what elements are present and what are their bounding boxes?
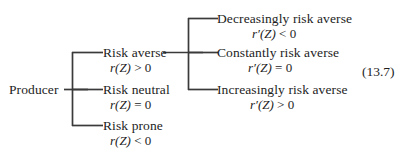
condition-decreasingly-arg: (Z) [260,26,276,41]
condition-constantly-rel: = 0 [272,60,292,75]
condition-risk-averse-arg: (Z) [115,60,131,75]
condition-constantly-risk-averse: r′(Z) = 0 [248,61,292,74]
condition-decreasingly-fn: r′ [252,26,260,41]
condition-constantly-fn: r′ [248,60,256,75]
condition-increasingly-fn: r′ [250,97,258,112]
condition-risk-prone: r(Z) < 0 [110,134,151,147]
node-increasingly-risk-averse: Increasingly risk averse [217,83,348,96]
node-producer: Producer [9,83,59,96]
risk-preference-tree-figure: Producer Risk averse r(Z) > 0 Risk neutr… [0,0,411,153]
condition-risk-neutral: r(Z) = 0 [110,98,151,111]
node-decreasingly-risk-averse: Decreasingly risk averse [217,12,352,25]
condition-risk-prone-rel: < 0 [131,133,151,148]
condition-risk-prone-arg: (Z) [115,133,131,148]
condition-risk-averse-rel: > 0 [131,60,151,75]
condition-increasingly-arg: (Z) [258,97,274,112]
condition-constantly-arg: (Z) [256,60,272,75]
node-risk-prone: Risk prone [103,119,163,132]
node-constantly-risk-averse: Constantly risk averse [217,46,339,59]
equation-number: (13.7) [362,64,395,80]
condition-decreasingly-risk-averse: r′(Z) < 0 [252,27,296,40]
condition-risk-neutral-rel: = 0 [131,97,151,112]
condition-risk-averse: r(Z) > 0 [110,61,151,74]
node-risk-averse: Risk averse [103,46,167,59]
condition-decreasingly-rel: < 0 [276,26,296,41]
condition-risk-neutral-arg: (Z) [115,97,131,112]
node-risk-neutral: Risk neutral [103,83,170,96]
condition-increasingly-risk-averse: r′(Z) > 0 [250,98,294,111]
condition-increasingly-rel: > 0 [274,97,294,112]
